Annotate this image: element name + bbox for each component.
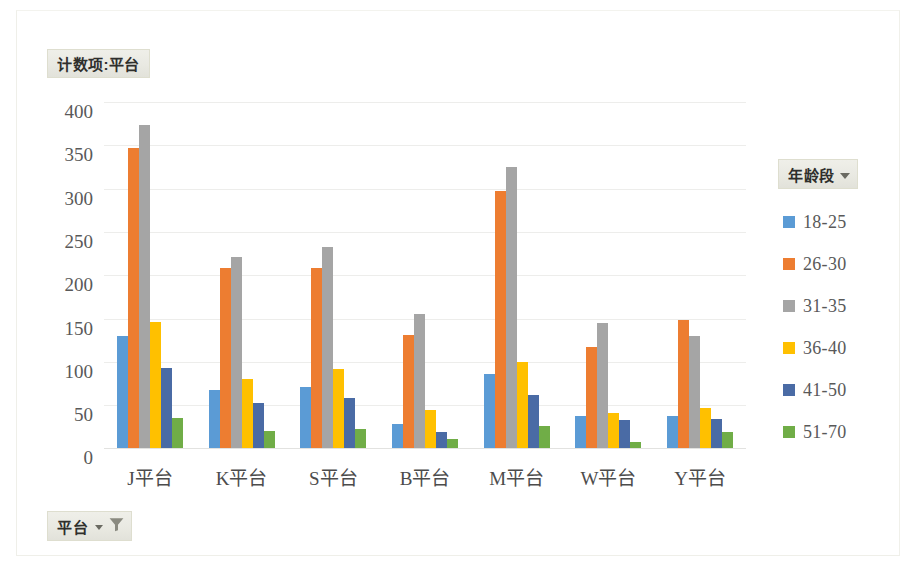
legend: 18-2526-3031-3536-4041-5051-70 [783,201,893,453]
row-field-label: 平台 [57,516,88,537]
bar[interactable] [231,257,242,448]
bar[interactable] [711,419,722,448]
bar[interactable] [689,336,700,448]
legend-label: 51-70 [803,422,847,443]
axis-baseline [104,448,746,449]
y-tick: 0 [45,447,93,469]
x-tick-label: S平台 [287,451,379,491]
y-tick: 400 [45,101,93,123]
bar[interactable] [300,387,311,448]
legend-item[interactable]: 26-30 [783,243,893,285]
legend-item[interactable]: 31-35 [783,285,893,327]
legend-swatch-icon [783,426,795,438]
bar[interactable] [172,418,183,448]
y-tick: 300 [45,188,93,210]
x-tick-label: Y平台 [654,451,746,491]
bar-group [196,102,288,448]
pivot-chart-frame: 计数项:平台 400 350 300 250 200 150 100 50 0 … [16,10,900,556]
bar-group [563,102,655,448]
bar[interactable] [539,426,550,448]
bar-group [379,102,471,448]
y-tick: 350 [45,144,93,166]
bar-group [654,102,746,448]
bar[interactable] [597,323,608,448]
bar[interactable] [392,424,403,448]
bar[interactable] [586,347,597,448]
filter-funnel-icon[interactable] [108,516,125,536]
bar-group [287,102,379,448]
x-tick-label: W平台 [563,451,655,491]
bar[interactable] [253,403,264,448]
bar[interactable] [722,432,733,448]
bar[interactable] [678,320,689,448]
legend-label: 41-50 [803,380,847,401]
bar[interactable] [630,442,641,448]
bar[interactable] [506,167,517,448]
x-tick-label: J平台 [104,451,196,491]
legend-label: 31-35 [803,296,847,317]
x-tick-label: M平台 [471,451,563,491]
legend-label: 26-30 [803,254,847,275]
row-field-button[interactable]: 平台 [47,511,132,541]
bar[interactable] [220,268,231,448]
bar[interactable] [117,336,128,448]
bar[interactable] [495,191,506,448]
bar[interactable] [414,314,425,448]
bar[interactable] [517,362,528,448]
bar[interactable] [700,408,711,448]
legend-swatch-icon [783,300,795,312]
bar[interactable] [344,398,355,448]
legend-swatch-icon [783,258,795,270]
y-tick: 50 [45,404,93,426]
bar[interactable] [128,148,139,448]
y-tick: 150 [45,318,93,340]
legend-label: 18-25 [803,212,847,233]
bar[interactable] [528,395,539,448]
legend-swatch-icon [783,384,795,396]
bar-groups [104,102,746,448]
bar-group [471,102,563,448]
bar[interactable] [447,439,458,449]
bar[interactable] [264,431,275,448]
bar[interactable] [575,416,586,448]
plot-wrapper: 400 350 300 250 200 150 100 50 0 J平台K平台S… [17,11,901,557]
bar[interactable] [608,413,619,448]
bar[interactable] [150,322,161,448]
legend-label: 36-40 [803,338,847,359]
legend-field-button[interactable]: 年龄段 [778,159,858,189]
bar[interactable] [619,420,630,448]
legend-field-label: 年龄段 [788,164,835,185]
y-axis: 400 350 300 250 200 150 100 50 0 [37,11,93,557]
bar[interactable] [242,379,253,448]
bar[interactable] [425,410,436,448]
chevron-down-icon[interactable] [840,173,850,179]
bar[interactable] [436,432,447,448]
x-tick-label: B平台 [379,451,471,491]
x-axis: J平台K平台S平台B平台M平台W平台Y平台 [104,451,746,491]
bar[interactable] [139,125,150,448]
bar[interactable] [667,416,678,448]
legend-item[interactable]: 18-25 [783,201,893,243]
bar[interactable] [355,429,366,448]
bar[interactable] [161,368,172,448]
chevron-down-icon[interactable] [95,525,103,530]
y-tick: 100 [45,361,93,383]
legend-item[interactable]: 36-40 [783,327,893,369]
legend-item[interactable]: 51-70 [783,411,893,453]
bar[interactable] [484,374,495,448]
bar[interactable] [333,369,344,448]
x-tick-label: K平台 [196,451,288,491]
legend-swatch-icon [783,342,795,354]
bar[interactable] [311,268,322,448]
bar[interactable] [209,390,220,448]
legend-item[interactable]: 41-50 [783,369,893,411]
bar-group [104,102,196,448]
y-tick: 250 [45,231,93,253]
bar[interactable] [322,247,333,448]
y-tick: 200 [45,274,93,296]
bar[interactable] [403,335,414,448]
legend-swatch-icon [783,216,795,228]
